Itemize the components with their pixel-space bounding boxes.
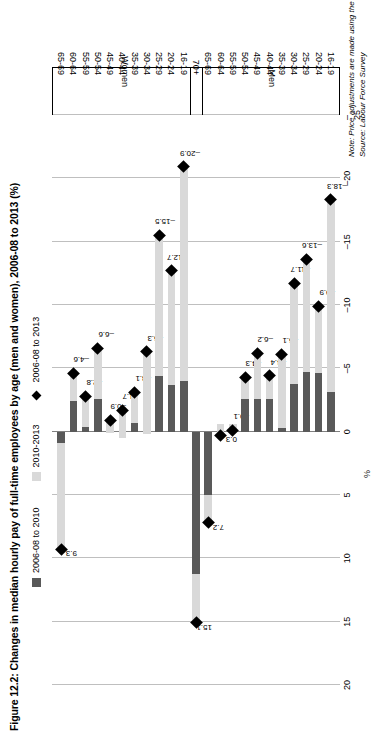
bar-row <box>315 115 323 685</box>
bar-segment-2006-08-to-2010 <box>70 401 78 431</box>
x-axis-title: % <box>362 115 372 685</box>
bar-row <box>204 115 212 685</box>
x-tick-label--10: –10 <box>342 297 352 312</box>
legend-item-0: 2006-08 to 2010 <box>31 507 41 587</box>
bar-row <box>155 115 163 685</box>
page-title: Figure 12.2: Changes in median hourly pa… <box>8 171 21 731</box>
bar-segment-2006-08-to-2010 <box>131 423 139 432</box>
group-label-women: Women <box>120 56 130 87</box>
x-axis-title-text: % <box>362 470 372 478</box>
bar-segment-2006-08-to-2010 <box>241 399 249 432</box>
bar-segment-2006-08-to-2010 <box>82 427 90 432</box>
legend-label-1: 2010-2013 <box>31 424 41 467</box>
x-tick-label-10: 10 <box>342 553 352 563</box>
category-label-women-35-39: 35-39 <box>129 35 141 75</box>
bar-segment-2006-08-to-2010 <box>303 372 311 432</box>
dark-square-swatch-icon <box>32 578 41 587</box>
x-tick-label--20: –20 <box>342 171 352 186</box>
bar-segment-2006-08-to-2010 <box>155 376 163 432</box>
bar-segment-2006-08-to-2010 <box>254 399 262 432</box>
category-label-women-60-64: 60-64 <box>67 35 79 75</box>
group-separator-70plus-men <box>202 67 203 115</box>
group-label-men: Men <box>267 69 277 87</box>
bar-segment-2010-2013 <box>315 306 323 373</box>
bar-segment-2010-2013 <box>290 283 298 383</box>
category-label-70-: 70+ <box>190 35 202 75</box>
bar-row <box>106 115 114 685</box>
x-tick-label-20: 20 <box>342 680 352 690</box>
light-square-swatch-icon <box>32 472 41 481</box>
category-label-men-16-19: 16-19 <box>325 35 337 75</box>
x-axis-ticks: 20151050–5–10–15–20–25 <box>340 115 362 685</box>
legend-label-2: 2006-08 to 2013 <box>31 317 41 383</box>
bar-segment-2010-2013 <box>57 443 65 549</box>
category-label-men-65-69: 65-69 <box>202 35 214 75</box>
bar-segment-2006-08-to-2010 <box>266 399 274 432</box>
bar-segment-2006-08-to-2010 <box>168 385 176 432</box>
bar-row <box>70 115 78 685</box>
bar-segment-2010-2013 <box>303 259 311 372</box>
note-text: Note: Price adjustments are made using t… <box>346 0 357 157</box>
legend-label-0: 2006-08 to 2010 <box>31 507 41 573</box>
bar-segment-2010-2013 <box>180 167 188 381</box>
bar-segment-2006-08-to-2010 <box>204 432 212 495</box>
bar-segment-2010-2013 <box>278 354 286 427</box>
legend-item-1: 2010-2013 <box>31 424 41 481</box>
legend-item-2: 2006-08 to 2013 <box>31 317 41 399</box>
category-label-women-25-29: 25-29 <box>153 35 165 75</box>
bar-row <box>290 115 298 685</box>
category-label-women-30-34: 30-34 <box>141 35 153 75</box>
bar-row <box>217 115 225 685</box>
bar-segment-2010-2013 <box>94 348 102 399</box>
bar-row <box>168 115 176 685</box>
bar-segment-2006-08-to-2010 <box>180 381 188 432</box>
category-label-women-16-19: 16-19 <box>178 35 190 75</box>
group-separator-women-70plus <box>190 67 191 115</box>
x-tick-label--5: –5 <box>342 363 352 373</box>
bar-row <box>192 115 200 685</box>
bar-segment-2010-2013 <box>327 200 335 393</box>
chart-legend: 2006-08 to 2010 2010-2013 2006-08 to 201… <box>31 317 41 587</box>
x-tick-label-0: 0 <box>342 429 352 434</box>
figure-notes: Note: Price adjustments are made using t… <box>346 0 368 157</box>
plot-area: 9.3–4.6–2.8–6.6–0.9–1.7–3.1–6.3–15.5–12.… <box>52 115 340 685</box>
bar-segment-2006-08-to-2010 <box>327 392 335 431</box>
bar-row <box>229 115 237 685</box>
category-label-men-45-49: 45-49 <box>251 35 263 75</box>
bar-segment-2006-08-to-2010 <box>278 428 286 432</box>
category-axis-labels: 65-6960-6455-5950-5445-4940-4435-3930-34… <box>52 69 340 115</box>
category-label-women-65-69: 65-69 <box>55 35 67 75</box>
bar-segment-2006-08-to-2010 <box>192 432 200 574</box>
bar-segment-2010-2013 <box>168 271 176 385</box>
bar-row <box>278 115 286 685</box>
chart-figure: Figure 12.2: Changes in median hourly pa… <box>0 0 388 737</box>
bar-row <box>143 115 151 685</box>
bar-layer: 9.3–4.6–2.8–6.6–0.9–1.7–3.1–6.3–15.5–12.… <box>52 115 340 685</box>
source-text: Source: Labour Force Survey <box>357 0 368 157</box>
category-label-women-50-54: 50-54 <box>92 35 104 75</box>
bar-row <box>180 115 188 685</box>
category-label-women-55-59: 55-59 <box>80 35 92 75</box>
bar-segment-2010-2013 <box>155 235 163 376</box>
category-label-men-60-64: 60-64 <box>215 35 227 75</box>
x-tick-label--15: –15 <box>342 234 352 249</box>
bar-segment-2006-08-to-2010 <box>57 432 65 443</box>
category-label-men-30-34: 30-34 <box>288 35 300 75</box>
category-label-men-50-54: 50-54 <box>239 35 251 75</box>
bar-row <box>131 115 139 685</box>
bar-segment-2010-2013 <box>143 352 151 434</box>
category-label-men-55-59: 55-59 <box>227 35 239 75</box>
bar-segment-2006-08-to-2010 <box>315 373 323 431</box>
x-tick-label-15: 15 <box>342 617 352 627</box>
category-label-men-25-29: 25-29 <box>300 35 312 75</box>
category-label-men-35-39: 35-39 <box>276 35 288 75</box>
bar-segment-2006-08-to-2010 <box>290 384 298 432</box>
bar-row <box>57 115 65 685</box>
x-tick-label-5: 5 <box>342 492 352 497</box>
bar-row <box>303 115 311 685</box>
bar-segment-2006-08-to-2010 <box>94 399 102 432</box>
category-label-women-45-49: 45-49 <box>104 35 116 75</box>
bar-row <box>266 115 274 685</box>
bar-row <box>241 115 249 685</box>
category-label-women-20-24: 20-24 <box>165 35 177 75</box>
